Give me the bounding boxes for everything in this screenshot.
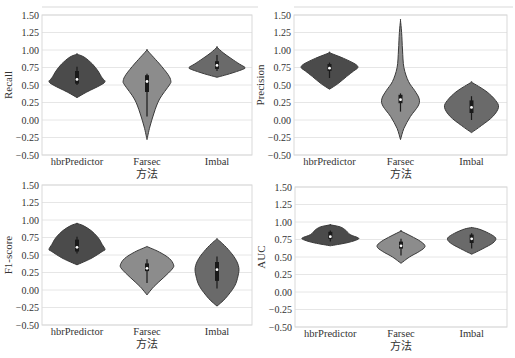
- violin-hbrpredictor: [302, 225, 359, 246]
- median-dot: [216, 268, 219, 271]
- y-tick-label: 0.50: [22, 250, 40, 261]
- median-dot: [146, 267, 149, 270]
- y-tick-label: −0.25: [16, 302, 39, 313]
- y-tick-label: 0.75: [275, 234, 293, 245]
- y-tick-label: −0.50: [269, 322, 292, 333]
- x-tick-label: Farsec: [133, 156, 161, 167]
- y-tick-label: 0.75: [22, 62, 40, 73]
- median-dot: [76, 246, 79, 249]
- y-tick-label: 0.50: [275, 252, 293, 263]
- panel-recall: 1.501.251.000.750.500.250.00−0.25−0.50Re…: [2, 7, 258, 180]
- violin-body: [381, 19, 419, 140]
- y-tick-label: 0.25: [274, 97, 292, 108]
- median-dot: [329, 235, 332, 238]
- median-dot: [328, 67, 331, 70]
- x-tick-label: Imbal: [205, 326, 230, 337]
- x-tick-label: hbrPredictor: [51, 156, 104, 167]
- y-tick-label: 1.25: [275, 199, 293, 210]
- y-tick-label: 1.00: [22, 215, 40, 226]
- violin-farsec: [120, 246, 174, 294]
- violin-figure: 1.501.251.000.750.500.250.00−0.25−0.50Re…: [0, 0, 515, 358]
- median-dot: [146, 80, 149, 83]
- violin-hbrpredictor: [49, 54, 105, 98]
- violin-imbal: [444, 82, 498, 133]
- x-axis-label: 方法: [390, 167, 412, 180]
- y-tick-label: 0.25: [22, 267, 40, 278]
- panel-auc: 1.501.251.000.750.500.250.00−0.25−0.50AU…: [255, 182, 507, 353]
- y-tick-label: 0.50: [22, 80, 40, 91]
- panel-f1-score: 1.501.251.000.750.500.250.00−0.25−0.50F1…: [2, 180, 252, 351]
- x-tick-label: Imbal: [459, 156, 484, 167]
- x-tick-label: Imbal: [205, 156, 230, 167]
- x-tick-label: Farsec: [387, 156, 415, 167]
- violin-imbal: [189, 47, 245, 78]
- median-dot: [470, 106, 473, 109]
- violin-hbrpredictor: [301, 52, 358, 89]
- violin-imbal: [447, 227, 495, 254]
- median-dot: [216, 64, 219, 67]
- y-tick-label: 1.00: [22, 45, 40, 56]
- violin-farsec: [377, 231, 425, 264]
- y-tick-label: 0.25: [22, 97, 40, 108]
- y-axis-label: F1-score: [2, 236, 14, 275]
- y-axis-label: AUC: [255, 245, 267, 268]
- x-axis-label: 方法: [136, 337, 158, 350]
- y-tick-label: 1.25: [22, 27, 40, 38]
- iqr-box: [75, 240, 79, 252]
- median-dot: [470, 237, 473, 240]
- y-tick-label: 0.75: [22, 232, 40, 243]
- y-tick-label: 0.00: [22, 285, 40, 296]
- y-tick-label: 0.75: [274, 62, 292, 73]
- y-tick-label: 1.00: [274, 45, 292, 56]
- x-tick-label: Farsec: [133, 326, 161, 337]
- iqr-box: [215, 262, 219, 281]
- y-tick-label: 0.00: [274, 115, 292, 126]
- y-tick-label: 0.00: [275, 287, 293, 298]
- y-tick-label: 1.25: [274, 27, 292, 38]
- x-tick-label: hbrPredictor: [304, 328, 357, 339]
- median-dot: [399, 98, 402, 101]
- violin-imbal: [195, 238, 239, 306]
- x-tick-label: hbrPredictor: [51, 326, 104, 337]
- violin-farsec: [123, 49, 171, 139]
- y-tick-label: 1.50: [274, 10, 292, 21]
- median-dot: [76, 78, 79, 81]
- y-tick-label: 0.00: [22, 115, 40, 126]
- y-tick-label: −0.50: [16, 150, 39, 161]
- y-tick-label: 0.50: [274, 80, 292, 91]
- x-tick-label: hbrPredictor: [303, 156, 356, 167]
- y-axis-label: Precision: [254, 64, 266, 105]
- x-tick-label: Imbal: [459, 328, 484, 339]
- y-tick-label: 1.50: [275, 182, 293, 193]
- iqr-box: [75, 71, 79, 84]
- panel-precision: 1.501.251.000.750.500.250.00−0.25−0.50Pr…: [254, 7, 513, 180]
- y-tick-label: 0.25: [275, 269, 293, 280]
- y-axis-label: Recall: [2, 71, 14, 99]
- y-tick-label: −0.25: [16, 132, 39, 143]
- y-tick-label: −0.50: [268, 150, 291, 161]
- violin-hbrpredictor: [49, 223, 105, 265]
- y-tick-label: −0.25: [269, 304, 292, 315]
- y-tick-label: 1.25: [22, 197, 40, 208]
- x-axis-label: 方法: [390, 339, 412, 352]
- y-tick-label: 1.50: [22, 10, 40, 21]
- x-tick-label: Farsec: [387, 328, 415, 339]
- violin-farsec: [381, 19, 419, 140]
- y-tick-label: −0.25: [268, 132, 291, 143]
- y-tick-label: 1.50: [22, 180, 40, 191]
- iqr-box: [145, 75, 149, 92]
- y-tick-label: 1.00: [275, 217, 293, 228]
- y-tick-label: −0.50: [16, 320, 39, 331]
- x-axis-label: 方法: [136, 167, 158, 180]
- median-dot: [400, 244, 403, 247]
